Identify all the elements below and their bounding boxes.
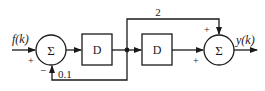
input-label: f(k) (12, 32, 29, 46)
sum1-sigma: Σ (47, 43, 55, 58)
sum1-minus-sign: − (40, 64, 46, 76)
summer-2: Σ (204, 35, 234, 65)
output-label: y(k) (235, 33, 255, 47)
delay-block-2: D (142, 34, 172, 65)
sum2-left-plus-sign: + (193, 55, 199, 66)
feedforward-gain: 2 (155, 6, 161, 18)
block-diagram: f(k) + Σ D D + 2 + Σ y(k) 0.1 − (0, 0, 265, 91)
delay2-label: D (153, 43, 162, 57)
delay-block-1: D (82, 34, 112, 65)
delay1-label: D (93, 43, 102, 57)
sum2-sigma: Σ (215, 43, 223, 58)
feedback-gain: 0.1 (58, 68, 72, 80)
sum1-plus-sign: + (28, 55, 34, 66)
summer-1: Σ (36, 35, 66, 65)
sum2-top-plus-sign: + (204, 24, 210, 35)
